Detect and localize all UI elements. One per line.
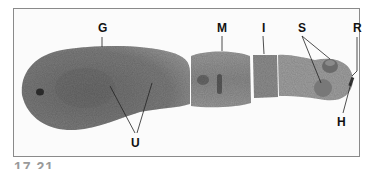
specimen-image [0,0,378,169]
label-r: R [353,22,362,34]
label-u: U [131,137,140,149]
figure-number: 17.21 [14,160,54,169]
label-h: H [337,116,346,128]
label-m: M [217,22,227,34]
label-i: I [262,22,265,34]
label-s: S [298,22,306,34]
label-g: G [98,22,107,34]
immature-proglottid [253,55,353,101]
mature-proglottid [191,52,251,108]
gravid-proglottid [22,46,190,130]
